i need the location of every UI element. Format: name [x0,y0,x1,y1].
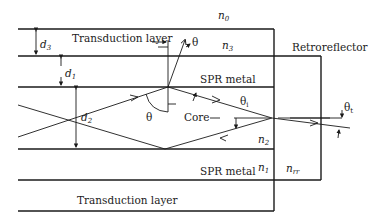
retroreflector-label: Retroreflector [292,41,369,53]
n1-label: n1 [258,161,269,175]
n3-label: n3 [222,39,234,53]
d3-label: d3 [40,38,52,52]
theta-t-label: θt [344,101,353,115]
nrr-label: nrr [286,162,300,176]
core-label: Core [184,111,210,123]
d1-label: d1 [65,67,76,81]
spr-metal-bottom-label: SPR metal [200,165,256,177]
spr-sensor-diagram: Transduction layer SPR metal Core SPR me… [0,0,369,224]
theta-i-label: θi [240,95,249,109]
n2-label: n2 [258,133,270,147]
n0-label: n0 [218,9,230,23]
spr-metal-top-label: SPR metal [200,73,256,85]
theta-arc [146,94,168,112]
transduction-layer-bottom-label: Transduction layer [77,194,179,206]
layer-lines [18,29,321,211]
theta-top-label: θ [192,36,198,48]
theta-core-label: θ [146,111,152,123]
